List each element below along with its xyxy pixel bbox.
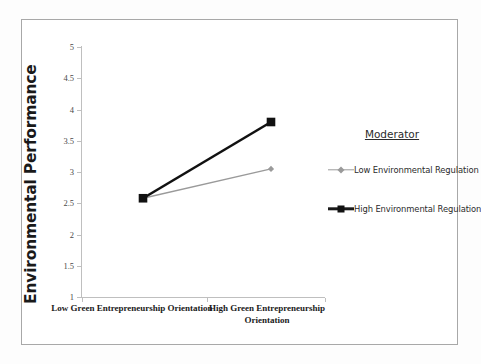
data-point-marker bbox=[267, 118, 276, 127]
series-line bbox=[143, 122, 271, 198]
chart-figure: Environmental Performance 54.543.532.521… bbox=[0, 0, 481, 364]
x-category-label-1: High Green Entrepreneurship Orientation bbox=[207, 303, 327, 326]
series-line bbox=[143, 169, 271, 198]
series-low bbox=[140, 166, 274, 202]
legend: Moderator Low Environmental Regulation H… bbox=[328, 120, 456, 230]
x-category-label-0: Low Green Entrepreneurship Orientation bbox=[48, 303, 216, 315]
data-point-marker bbox=[139, 194, 148, 203]
data-point-marker bbox=[268, 166, 274, 172]
x-axis-category-labels: Low Green Entrepreneurship Orientation H… bbox=[82, 303, 325, 361]
legend-item-high-environmental-regulation[interactable]: High Environmental Regulation bbox=[328, 203, 481, 215]
legend-item-low-environmental-regulation[interactable]: Low Environmental Regulation bbox=[328, 164, 479, 176]
legend-marker-square-icon bbox=[328, 203, 354, 215]
legend-title: Moderator bbox=[328, 128, 456, 140]
legend-marker-diamond-icon bbox=[328, 164, 354, 176]
legend-label-high: High Environmental Regulation bbox=[354, 204, 481, 214]
legend-label-low: Low Environmental Regulation bbox=[354, 165, 479, 175]
series-high bbox=[139, 118, 276, 203]
